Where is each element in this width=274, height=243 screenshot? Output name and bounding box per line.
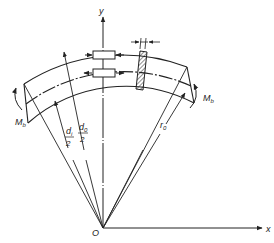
inner-radius-line — [73, 160, 103, 228]
inner-right-ray — [103, 150, 143, 228]
neutral-radius-arrow — [166, 93, 185, 124]
left-boundary-ray — [24, 84, 103, 228]
inner-fiber-arc — [28, 86, 194, 123]
origin-label: O — [92, 228, 99, 238]
curved-beam — [24, 55, 194, 123]
x-axis-label: x — [265, 224, 271, 234]
outer-radius-line — [86, 160, 103, 228]
axes — [103, 17, 262, 228]
curved-beam-diagram: y x O Mb Mb di 2 d0 2 r0 — [0, 0, 274, 243]
inner-radius-label: di 2 — [65, 126, 74, 148]
svg-text:2: 2 — [79, 135, 85, 144]
outer-radius-label: d0 2 — [78, 122, 88, 144]
left-moment-label: Mb — [15, 117, 27, 128]
right-moment-label: Mb — [203, 93, 215, 104]
hatched-element — [131, 38, 160, 90]
svg-text:2: 2 — [65, 139, 71, 148]
left-moment-arrow — [15, 88, 22, 110]
stress-element-tension — [84, 69, 124, 77]
svg-text:d0: d0 — [79, 122, 88, 133]
neutral-radius-label: r0 — [160, 120, 167, 131]
radius-lines — [24, 52, 187, 228]
svg-text:di: di — [66, 126, 73, 137]
y-axis-label: y — [98, 6, 104, 16]
neutral-radius-line — [103, 134, 160, 228]
